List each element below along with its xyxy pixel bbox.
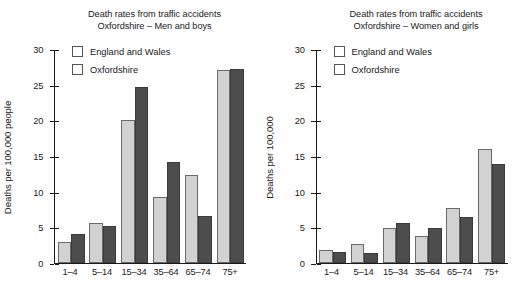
x-axis-label: 35–64 <box>150 267 182 277</box>
y-tick-5: 5 <box>50 228 55 229</box>
bar-groups-left <box>55 50 246 263</box>
y-tick-label-0: 0 <box>38 259 43 269</box>
bar <box>415 236 429 262</box>
plot-area-left: 051015202530 <box>54 50 246 264</box>
y-axis-label-left: Deaths per 100,000 people <box>0 50 16 264</box>
y-tick-10: 10 <box>50 193 55 194</box>
y-tick-label-10: 10 <box>33 188 43 198</box>
y-tick-30: 30 <box>50 50 55 51</box>
bar <box>319 250 333 263</box>
y-tick-label-20: 20 <box>33 116 43 126</box>
y-tick-label-15: 15 <box>295 152 305 162</box>
bar <box>58 242 72 263</box>
y-tick-0: 0 <box>50 264 55 265</box>
y-tick-20: 20 <box>311 121 316 122</box>
x-axis-label: 75+ <box>214 267 246 277</box>
y-tick-label-30: 30 <box>33 45 43 55</box>
bar-group <box>87 50 119 263</box>
bar <box>351 244 365 263</box>
bar <box>121 120 135 263</box>
bar-group <box>55 50 87 263</box>
y-axis-label-right-text: Deaths per 100,000 <box>264 116 275 198</box>
bar <box>71 234 85 263</box>
x-axis-label: 1–4 <box>316 267 348 277</box>
y-tick-label-30: 30 <box>295 45 305 55</box>
x-axis-labels-right: 1–45–1415–3435–6465–7475+ <box>316 267 508 277</box>
bar-group <box>214 50 246 263</box>
x-axis-label: 5–14 <box>86 267 118 277</box>
x-axis-label: 65–74 <box>182 267 214 277</box>
y-tick-label-25: 25 <box>295 81 305 91</box>
bar-group <box>380 50 412 263</box>
bar <box>428 228 442 263</box>
x-axis-labels-left: 1–45–1415–3435–6465–7475+ <box>54 267 246 277</box>
y-tick-10: 10 <box>311 193 316 194</box>
y-tick-0: 0 <box>311 264 316 265</box>
bar <box>185 175 199 263</box>
bar-group <box>349 50 381 263</box>
y-tick-label-5: 5 <box>300 223 305 233</box>
y-tick-15: 15 <box>311 157 316 158</box>
y-tick-5: 5 <box>311 228 316 229</box>
x-axis-label: 1–4 <box>54 267 86 277</box>
x-axis-label: 5–14 <box>348 267 380 277</box>
bar-group <box>182 50 214 263</box>
bar-group <box>317 50 349 263</box>
y-tick-25: 25 <box>311 86 316 87</box>
x-axis-line-right <box>316 263 508 264</box>
bar <box>333 252 347 263</box>
bar <box>167 162 181 263</box>
chart-title-line-2: Oxfordshire – Men and boys <box>52 20 257 32</box>
chart-title-line-1: Death rates from traffic accidents <box>52 8 257 20</box>
bar-groups-right <box>317 50 508 263</box>
bar <box>217 70 231 263</box>
x-axis-label: 35–64 <box>412 267 444 277</box>
x-axis-label: 75+ <box>476 267 508 277</box>
bar-group <box>444 50 476 263</box>
bar <box>396 223 410 262</box>
chart-title-left: Death rates from traffic accidents Oxfor… <box>52 8 257 32</box>
y-tick-20: 20 <box>50 121 55 122</box>
y-axis-label-right: Deaths per 100,000 <box>262 50 278 264</box>
x-axis-label: 15–34 <box>118 267 150 277</box>
chart-panel-women-and-girls: Death rates from traffic accidents Oxfor… <box>262 0 523 292</box>
y-axis-label-left-text: Deaths per 100,000 people <box>3 100 14 213</box>
y-tick-inner-0 <box>317 264 321 265</box>
chart-title-right: Death rates from traffic accidents Oxfor… <box>314 8 519 32</box>
chart-title-line-1: Death rates from traffic accidents <box>314 8 519 20</box>
y-tick-15: 15 <box>50 157 55 158</box>
y-tick-label-0: 0 <box>300 259 305 269</box>
bar <box>446 208 460 263</box>
x-axis-line-left <box>54 263 246 264</box>
bar <box>478 149 492 263</box>
y-tick-label-20: 20 <box>295 116 305 126</box>
bar-group <box>412 50 444 263</box>
x-axis-label: 15–34 <box>380 267 412 277</box>
bar <box>460 217 474 263</box>
bar <box>103 226 117 263</box>
bar <box>153 197 167 263</box>
y-tick-30: 30 <box>311 50 316 51</box>
y-tick-label-15: 15 <box>33 152 43 162</box>
bar-group <box>151 50 183 263</box>
y-tick-label-25: 25 <box>33 81 43 91</box>
bar <box>230 69 244 263</box>
y-tick-label-10: 10 <box>295 188 305 198</box>
x-axis-label: 65–74 <box>444 267 476 277</box>
bar <box>364 253 378 262</box>
bar-group <box>119 50 151 263</box>
bar <box>135 87 149 262</box>
y-tick-label-5: 5 <box>38 223 43 233</box>
y-tick-inner-0 <box>55 264 59 265</box>
bar <box>383 228 397 263</box>
y-tick-25: 25 <box>50 86 55 87</box>
bar <box>492 164 506 262</box>
plot-area-right: 051015202530 <box>316 50 508 264</box>
chart-title-line-2: Oxfordshire – Women and girls <box>314 20 519 32</box>
bar-group <box>476 50 508 263</box>
bar <box>198 216 212 262</box>
dual-bar-chart-figure: Death rates from traffic accidents Oxfor… <box>0 0 523 292</box>
chart-panel-men-and-boys: Death rates from traffic accidents Oxfor… <box>0 0 262 292</box>
bar <box>89 223 103 262</box>
